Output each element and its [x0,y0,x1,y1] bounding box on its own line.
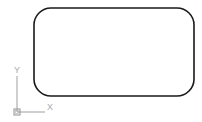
canvas-background [0,0,202,122]
cad-viewport[interactable]: Y X [0,0,202,122]
ucs-y-axis-label: Y [14,65,20,75]
drawing-canvas[interactable]: Y X [0,0,202,122]
ucs-x-axis-label: X [47,102,53,112]
